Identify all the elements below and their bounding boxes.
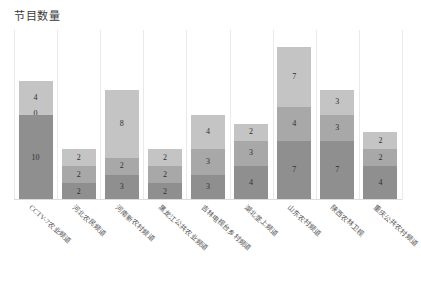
bar-segment[interactable]: 10 (19, 115, 53, 200)
x-label-slot: 吉林电视台乡村频道 (186, 202, 229, 280)
bar-value-label: 3 (206, 158, 210, 166)
bar-slot: 224 (359, 30, 402, 200)
bar-segment[interactable]: 2 (148, 149, 182, 166)
stacked-bar[interactable]: 222 (148, 149, 182, 200)
bar-slot: 234 (230, 30, 273, 200)
x-label-slot: 陕西农林卫视 (316, 202, 359, 280)
bar-value-label: 8 (120, 120, 124, 128)
bar-segment[interactable]: 2 (363, 149, 397, 166)
bar-value-label: 10 (32, 154, 40, 162)
bar-segment[interactable]: 8 (105, 90, 139, 158)
bar-slot: 433 (186, 30, 229, 200)
bar-segment[interactable]: 3 (191, 175, 225, 201)
bar-segment[interactable]: 2 (148, 183, 182, 200)
bar-value-label: 7 (292, 73, 296, 81)
x-label-slot: 山东农村频道 (273, 202, 316, 280)
bar-segment[interactable]: 2 (62, 149, 96, 166)
stacked-bar[interactable]: 234 (234, 124, 268, 201)
bar-segment[interactable]: 2 (62, 166, 96, 183)
bar-slot: 4010 (14, 30, 57, 200)
bar-segment[interactable]: 7 (277, 47, 311, 107)
bar-segment[interactable]: 3 (105, 175, 139, 201)
bar-value-label: 2 (77, 188, 81, 196)
bar-value-label: 2 (378, 137, 382, 145)
x-axis-tick-label: 重庆公共农村频道 (372, 202, 421, 248)
bar-value-label: 2 (378, 154, 382, 162)
x-label-slot: 河南新农村频道 (100, 202, 143, 280)
stacked-bar[interactable]: 224 (363, 132, 397, 200)
bars-container: 4010222823222433234747337224 (14, 30, 402, 200)
bar-value-label: 4 (378, 179, 382, 187)
bar-slot: 222 (143, 30, 186, 200)
bar-value-label: 3 (335, 124, 339, 132)
bar-value-label: 2 (163, 154, 167, 162)
bar-value-label: 4 (206, 128, 210, 136)
bar-value-label: 2 (120, 162, 124, 170)
bar-segment[interactable]: 2 (363, 132, 397, 149)
bar-segment[interactable]: 4 (277, 107, 311, 141)
bar-value-label: 2 (249, 128, 253, 136)
bar-segment[interactable]: 7 (277, 141, 311, 201)
bar-segment[interactable]: 2 (148, 166, 182, 183)
x-label-slot: 黑龙江公共农业频道 (143, 202, 186, 280)
bar-value-label: 3 (249, 149, 253, 157)
x-label-slot: 湖北垄上频道 (230, 202, 273, 280)
stacked-bar[interactable]: 4010 (19, 81, 53, 200)
bar-segment[interactable]: 2 (234, 124, 268, 141)
gridline-vertical (402, 30, 403, 200)
bar-segment[interactable]: 2 (62, 183, 96, 200)
stacked-bar[interactable]: 222 (62, 149, 96, 200)
x-label-slot: 河北农民频道 (57, 202, 100, 280)
bar-segment[interactable]: 4 (191, 115, 225, 149)
x-axis-labels: CCTV-7农业频道河北农民频道河南新农村频道黑龙江公共农业频道吉林电视台乡村频… (14, 202, 402, 280)
bar-slot: 222 (57, 30, 100, 200)
bar-value-label: 3 (335, 98, 339, 106)
bar-value-label: 2 (77, 171, 81, 179)
bar-value-label: 3 (206, 183, 210, 191)
x-label-slot: 重庆公共农村频道 (359, 202, 402, 280)
bar-value-label: 2 (163, 188, 167, 196)
plot-area: 4010222823222433234747337224 (14, 30, 402, 200)
x-axis-line (14, 199, 402, 200)
bar-value-label: 3 (120, 183, 124, 191)
bar-slot: 823 (100, 30, 143, 200)
bar-slot: 337 (316, 30, 359, 200)
bar-segment[interactable]: 2 (105, 158, 139, 175)
stacked-bar[interactable]: 337 (320, 90, 354, 201)
bar-value-label: 2 (163, 171, 167, 179)
bar-segment[interactable]: 4 (363, 166, 397, 200)
bar-segment[interactable]: 3 (320, 90, 354, 116)
bar-value-label: 4 (34, 94, 38, 102)
bar-segment[interactable]: 4 (19, 81, 53, 115)
x-label-slot: CCTV-7农业频道 (14, 202, 57, 280)
stacked-bar[interactable]: 823 (105, 90, 139, 201)
bar-value-label: 4 (249, 179, 253, 187)
bar-value-label: 2 (77, 154, 81, 162)
stacked-bar[interactable]: 747 (277, 47, 311, 200)
bar-segment[interactable]: 3 (191, 149, 225, 175)
chart-title: 节目数量 (14, 7, 60, 23)
bar-segment[interactable]: 4 (234, 166, 268, 200)
bar-segment[interactable]: 7 (320, 141, 354, 201)
bar-segment[interactable]: 3 (234, 141, 268, 167)
bar-value-label: 4 (292, 120, 296, 128)
bar-value-label: 7 (292, 166, 296, 174)
bar-value-label: 7 (335, 166, 339, 174)
stacked-bar[interactable]: 433 (191, 115, 225, 200)
bar-segment[interactable]: 3 (320, 115, 354, 141)
bar-slot: 747 (273, 30, 316, 200)
